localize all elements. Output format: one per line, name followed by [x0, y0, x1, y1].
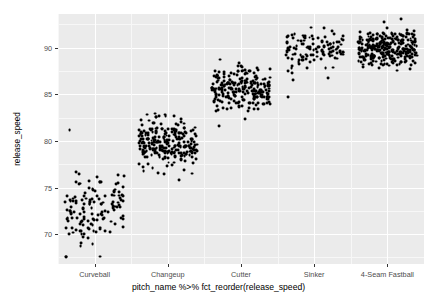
data-point	[102, 217, 105, 220]
data-point	[158, 154, 161, 157]
data-point	[389, 57, 392, 60]
data-point	[253, 97, 256, 100]
data-point	[69, 200, 72, 203]
data-point	[83, 210, 86, 213]
data-point	[362, 66, 365, 69]
data-point	[154, 151, 157, 154]
data-point	[147, 163, 150, 166]
data-point	[266, 97, 269, 100]
data-point	[238, 62, 241, 65]
data-point	[357, 42, 360, 45]
data-point	[158, 147, 161, 150]
data-point	[221, 88, 224, 91]
y-axis-tick-mark	[55, 188, 58, 189]
data-point	[184, 160, 187, 163]
data-point	[142, 170, 145, 173]
data-point	[361, 43, 364, 46]
data-point	[157, 172, 160, 175]
data-point	[174, 131, 177, 134]
data-point	[383, 55, 386, 58]
data-point	[409, 67, 412, 70]
data-point	[365, 49, 368, 52]
data-point	[139, 140, 142, 143]
data-point	[260, 83, 263, 86]
data-point	[378, 67, 381, 70]
data-point	[256, 82, 259, 85]
data-point	[174, 155, 177, 158]
data-point	[191, 155, 194, 158]
data-point	[237, 101, 240, 104]
data-point	[221, 107, 224, 110]
data-point	[376, 46, 379, 49]
data-point	[159, 122, 162, 125]
data-point	[182, 141, 185, 144]
data-point	[167, 128, 170, 131]
data-point	[290, 58, 293, 61]
data-point	[158, 136, 161, 139]
data-point	[74, 171, 77, 174]
x-axis-tick-mark	[387, 264, 388, 267]
plot-panel	[58, 14, 424, 264]
data-point	[237, 83, 240, 86]
data-point	[122, 194, 125, 197]
data-point	[194, 151, 197, 154]
data-point	[66, 194, 69, 197]
data-point	[74, 199, 77, 202]
data-point	[249, 101, 252, 104]
data-point	[403, 60, 406, 63]
x-axis-tick-mark	[168, 264, 169, 267]
data-point	[227, 75, 230, 78]
x-axis-tick-label-sinker: Sinker	[304, 270, 325, 279]
data-point	[144, 133, 147, 136]
data-point	[137, 162, 140, 165]
data-point	[192, 161, 195, 164]
data-point	[380, 40, 383, 43]
x-axis-tick-label-curveball: Curveball	[79, 270, 110, 279]
data-point	[75, 216, 78, 219]
data-point	[228, 102, 231, 105]
data-point	[95, 175, 98, 178]
data-point	[184, 144, 187, 147]
data-point	[189, 150, 192, 153]
x-axis-title: pitch_name %>% fct_reorder(release_speed…	[0, 282, 437, 292]
data-point	[68, 232, 71, 235]
data-point	[159, 140, 162, 143]
y-axis-title: release_speed	[10, 0, 24, 304]
data-point	[368, 39, 371, 42]
data-point	[376, 33, 379, 36]
data-point	[311, 43, 314, 46]
data-point	[211, 83, 214, 86]
data-point	[326, 77, 329, 80]
data-point	[213, 101, 216, 104]
data-point	[119, 206, 122, 209]
data-point	[342, 35, 345, 38]
data-point	[310, 26, 313, 29]
data-point	[112, 189, 115, 192]
data-point	[181, 154, 184, 157]
data-point	[316, 55, 319, 58]
data-point	[409, 64, 412, 67]
data-point	[83, 203, 86, 206]
data-point	[87, 227, 90, 230]
data-point	[401, 47, 404, 50]
data-point	[228, 79, 231, 82]
data-point	[175, 149, 178, 152]
y-axis-tick-mark	[55, 94, 58, 95]
data-point	[118, 194, 121, 197]
data-point	[254, 104, 257, 107]
data-point	[79, 229, 82, 232]
data-point	[244, 118, 247, 121]
data-point	[180, 158, 183, 161]
gridline-minor-vertical	[58, 14, 59, 264]
data-point	[287, 34, 290, 37]
data-point	[268, 76, 271, 79]
data-point	[71, 197, 74, 200]
y-axis-tick-label: 85	[28, 90, 52, 99]
data-point	[409, 55, 412, 58]
data-point	[267, 80, 270, 83]
data-point	[192, 146, 195, 149]
data-point	[122, 217, 125, 220]
data-point	[342, 39, 345, 42]
data-point	[94, 189, 97, 192]
data-point	[384, 43, 387, 46]
